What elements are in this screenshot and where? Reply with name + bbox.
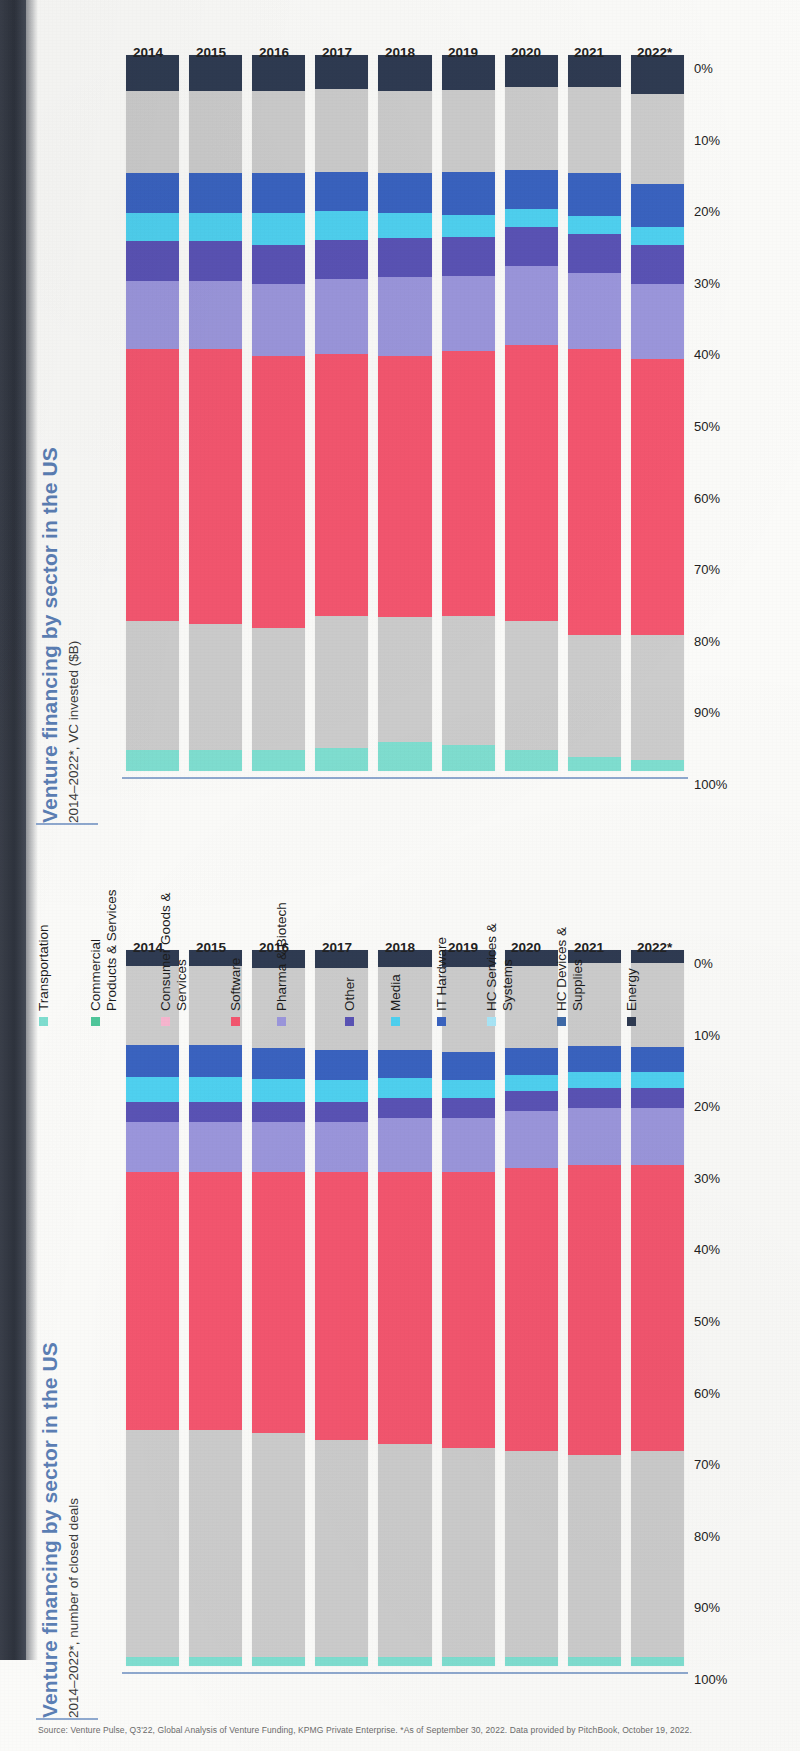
page-subtitle-vc: 2014–2022*, VC invested ($B) xyxy=(66,403,81,823)
legend-item-hc-devices-supplies[interactable]: HC Devices &Supplies xyxy=(554,836,586,1026)
bar-row: 2015 xyxy=(189,55,242,771)
stacked-bar-2018[interactable] xyxy=(378,55,431,771)
stacked-bar-2019[interactable] xyxy=(442,55,495,771)
legend-item-consumer-goods-services[interactable]: Consumer Goods &Services xyxy=(158,836,190,1026)
bar-segment-consumer-goods-services xyxy=(126,1429,179,1551)
bar-segment-software xyxy=(568,348,621,634)
bar-segment-transportation xyxy=(505,1657,558,1666)
bar-segment-it-hardware xyxy=(631,183,684,226)
bar-segment-pharma-biotech xyxy=(126,280,179,348)
legend-item-media[interactable]: Media xyxy=(388,836,404,1026)
bar-segment-media xyxy=(315,1080,368,1101)
stacked-bar-2018[interactable] xyxy=(378,950,431,1666)
bar-segment-pharma-biotech xyxy=(315,1121,368,1171)
stacked-bar-2021[interactable] xyxy=(568,55,621,771)
bar-segment-hc-devices-supplies xyxy=(252,90,305,140)
bar-segment-energy xyxy=(631,55,684,94)
bar-segment-it-hardware xyxy=(315,1050,368,1080)
bar-segment-consumer-goods-services xyxy=(568,1454,621,1554)
legend-item-pharma-biotech[interactable]: Pharma & Biotech xyxy=(274,836,290,1026)
bar-segment-software xyxy=(378,1172,431,1444)
bar-segment-consumer-goods-services xyxy=(631,1451,684,1548)
bar-segment-software xyxy=(378,355,431,616)
stacked-bar-2015[interactable] xyxy=(189,55,242,771)
bar-row: 2019 xyxy=(442,55,495,771)
bar-segment-pharma-biotech xyxy=(126,1121,179,1171)
legend-item-transportation[interactable]: Transportation xyxy=(36,836,52,1026)
bar-segment-consumer-goods-services xyxy=(378,1444,431,1555)
legend-swatch-icon xyxy=(91,1017,100,1026)
bar-segment-consumer-goods-services xyxy=(631,634,684,677)
bar-segment-it-hardware xyxy=(442,1051,495,1080)
bar-segment-media xyxy=(378,1078,431,1098)
bar-segment-other xyxy=(442,1098,495,1118)
x-axis-label-2016: 2016 xyxy=(259,45,289,60)
bar-segment-consumer-goods-services xyxy=(505,1451,558,1555)
poster-rotated-content: Venture financing by sector in the US 20… xyxy=(30,26,770,1726)
bar-segment-consumer-goods-services xyxy=(442,616,495,666)
stacked-bar-2014[interactable] xyxy=(126,950,179,1666)
y-tick-10pct: 10% xyxy=(694,132,720,147)
bar-segment-hc-devices-supplies xyxy=(189,90,242,140)
bar-segment-pharma-biotech xyxy=(505,1111,558,1168)
legend-item-label: Consumer Goods &Services xyxy=(158,892,190,1011)
legend-item-label: Energy xyxy=(624,968,640,1011)
legend-item-label: Pharma & Biotech xyxy=(274,902,290,1011)
stacked-bar-2016[interactable] xyxy=(252,55,305,771)
stacked-bar-2022star[interactable] xyxy=(631,950,684,1666)
legend-item-other[interactable]: Other xyxy=(342,836,358,1026)
bar-segment-pharma-biotech xyxy=(252,1121,305,1171)
bar-segment-other xyxy=(315,1101,368,1121)
bar-segment-pharma-biotech xyxy=(568,273,621,348)
y-tick-90pct: 90% xyxy=(694,1600,720,1615)
bar-segment-consumer-goods-services xyxy=(315,615,368,658)
bar-segment-it-hardware xyxy=(631,1046,684,1071)
bar-segment-transportation xyxy=(442,745,495,771)
stacked-bar-2016[interactable] xyxy=(252,950,305,1666)
y-tick-60pct: 60% xyxy=(694,490,720,505)
bar-segment-consumer-goods-services xyxy=(252,627,305,670)
bar-segment-commercial-products-services xyxy=(568,1555,621,1657)
y-tick-20pct: 20% xyxy=(694,1099,720,1114)
bar-segment-it-hardware xyxy=(315,171,368,210)
bar-segment-software xyxy=(631,359,684,635)
scanned-page: Venture financing by sector in the US 20… xyxy=(0,0,800,1751)
stacked-bar-2017[interactable] xyxy=(315,950,368,1666)
bar-segment-other xyxy=(631,244,684,283)
stacked-bar-2017[interactable] xyxy=(315,55,368,771)
legend-item-energy[interactable]: Energy xyxy=(624,836,640,1026)
stacked-bar-2014[interactable] xyxy=(126,55,179,771)
legend-item-software[interactable]: Software xyxy=(228,836,244,1026)
legend-swatch-icon xyxy=(557,1017,566,1026)
stacked-bar-2022star[interactable] xyxy=(631,55,684,771)
bar-segment-commercial-products-services xyxy=(378,1555,431,1657)
legend-swatch-icon xyxy=(437,1017,446,1026)
bar-segment-it-hardware xyxy=(378,173,431,212)
y-tick-90pct: 90% xyxy=(694,705,720,720)
stacked-bar-2020[interactable] xyxy=(505,950,558,1666)
bar-row: 2014 xyxy=(126,950,179,1666)
bar-segment-software xyxy=(252,1172,305,1433)
bar-segment-transportation xyxy=(442,1657,495,1666)
legend-item-it-hardware[interactable]: IT Hardware xyxy=(434,836,450,1026)
plot-area-deals: 201420152016201720182019202020212022* xyxy=(126,950,684,1666)
bar-segment-commercial-products-services xyxy=(505,1555,558,1657)
y-tick-60pct: 60% xyxy=(694,1385,720,1400)
stacked-bar-2015[interactable] xyxy=(189,950,242,1666)
stacked-bar-2020[interactable] xyxy=(505,55,558,771)
stacked-bar-2021[interactable] xyxy=(568,950,621,1666)
bar-segment-software xyxy=(126,1172,179,1430)
bar-segment-consumer-goods-services xyxy=(252,1433,305,1551)
legend-swatch-icon xyxy=(231,1017,240,1026)
chart-panel-vc-invested: Venture financing by sector in the US 20… xyxy=(30,41,770,831)
legend-item-hc-services-systems[interactable]: HC Services &Systems xyxy=(484,836,516,1026)
legend-item-commercial-products-services[interactable]: CommercialProducts & Services xyxy=(88,836,120,1026)
stacked-bar-2019[interactable] xyxy=(442,950,495,1666)
y-tick-labels-deals: 100%90%80%70%60%50%40%30%20%10%0% xyxy=(690,936,770,1726)
bar-segment-commercial-products-services xyxy=(505,667,558,749)
bar-segment-transportation xyxy=(568,1657,621,1666)
bar-segment-software xyxy=(315,354,368,615)
bar-segment-other xyxy=(631,1087,684,1107)
legend-swatch-icon xyxy=(627,1017,636,1026)
bar-segment-software xyxy=(189,1172,242,1430)
